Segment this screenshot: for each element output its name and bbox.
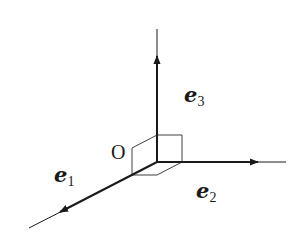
e3-label: e3 xyxy=(184,82,204,109)
e2-label: e2 xyxy=(196,178,216,205)
axis-e1 xyxy=(29,162,157,228)
coordinate-axes-diagram: O e3 e1 e2 xyxy=(0,0,304,234)
e1-label: e1 xyxy=(54,162,74,189)
origin-label: O xyxy=(111,141,125,163)
